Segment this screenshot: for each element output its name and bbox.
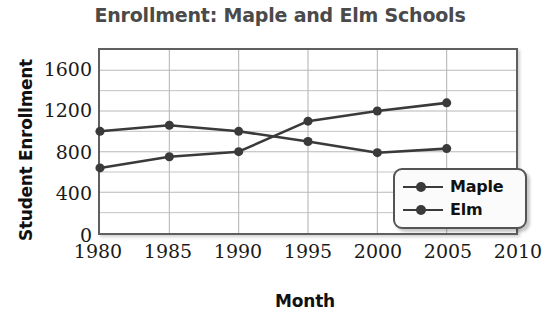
y-tick-label-800: 800 (22, 141, 92, 163)
x-tick-label-1985: 1985 (128, 240, 208, 262)
y-tick-label-1600: 1600 (22, 58, 92, 80)
legend-marker-icon (401, 179, 445, 195)
x-tick-label-2000: 2000 (338, 240, 418, 262)
data-point-maple-1980 (95, 163, 104, 172)
y-tick-label-400: 400 (22, 182, 92, 204)
x-tick-label-1980: 1980 (58, 240, 138, 262)
data-point-maple-2005 (442, 98, 451, 107)
data-point-maple-1995 (303, 117, 312, 126)
x-tick-label-2005: 2005 (408, 240, 488, 262)
y-tick-label-1200: 1200 (22, 99, 92, 121)
x-axis-title: Month (95, 291, 515, 311)
legend-label: Elm (450, 200, 483, 219)
data-point-elm-1995 (303, 137, 312, 146)
legend-marker-icon (401, 202, 445, 218)
x-tick-label-1995: 1995 (268, 240, 348, 262)
x-tick-label-2010: 2010 (478, 240, 558, 262)
x-axis-tick-labels: 1980198519901995200020052010 (98, 240, 558, 268)
series-line-elm (100, 125, 447, 152)
chart-figure: Enrollment: Maple and Elm Schools Studen… (0, 0, 560, 327)
legend-item-maple: Maple (401, 175, 519, 198)
y-axis-tick-labels: 040080012001600 (20, 48, 92, 235)
chart-title: Enrollment: Maple and Elm Schools (0, 4, 560, 26)
data-point-maple-1990 (234, 147, 243, 156)
data-point-elm-1990 (234, 127, 243, 136)
legend-label: Maple (450, 177, 504, 196)
data-point-elm-1980 (95, 127, 104, 136)
data-point-maple-1985 (165, 152, 174, 161)
data-point-elm-2000 (373, 148, 382, 157)
data-point-maple-2000 (373, 106, 382, 115)
legend: MapleElm (393, 168, 527, 229)
data-point-elm-1985 (165, 121, 174, 130)
legend-item-elm: Elm (401, 198, 519, 221)
data-point-elm-2005 (442, 144, 451, 153)
x-tick-label-1990: 1990 (198, 240, 278, 262)
